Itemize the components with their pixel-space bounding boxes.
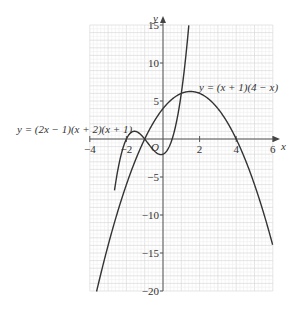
y-tick-label: −5 bbox=[147, 171, 159, 183]
x-axis-arrow-icon bbox=[273, 136, 280, 142]
y-axis-arrow-icon bbox=[160, 16, 166, 23]
cubic-equation-label: y = (2x − 1)(x + 2)(x + 1) bbox=[16, 123, 133, 136]
y-tick-label: 5 bbox=[154, 95, 160, 107]
y-tick-label: −20 bbox=[142, 285, 160, 297]
y-tick-label: 10 bbox=[148, 57, 160, 69]
x-tick-label: 2 bbox=[197, 143, 203, 155]
x-axis-label: x bbox=[280, 140, 286, 152]
y-axis-label: y bbox=[152, 12, 158, 24]
y-tick-label: −10 bbox=[142, 209, 160, 221]
quadratic-equation-label: y = (x + 1)(4 − x) bbox=[198, 81, 278, 94]
x-tick-label: 6 bbox=[270, 143, 276, 155]
grid bbox=[90, 25, 273, 291]
graph: −4−224615105−5−10−15−20 x y O y = (2x − … bbox=[0, 0, 298, 310]
y-tick-label: −15 bbox=[142, 247, 160, 259]
x-tick-label: −4 bbox=[84, 143, 96, 155]
